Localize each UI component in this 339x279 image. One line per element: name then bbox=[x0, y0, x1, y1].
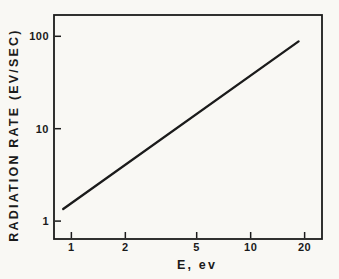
y-tick-label: 1 bbox=[42, 215, 49, 227]
x-tick-label: 1 bbox=[68, 241, 75, 253]
data-line bbox=[63, 41, 298, 209]
y-tick-label: 100 bbox=[29, 30, 49, 42]
y-tick-label: 10 bbox=[36, 123, 49, 135]
log-log-plot: 1251020110100 RADIATION RATE (EV/SEC) E,… bbox=[0, 0, 339, 279]
y-axis-title: RADIATION RATE (EV/SEC) bbox=[7, 28, 21, 241]
chart-figure: 1251020110100 RADIATION RATE (EV/SEC) E,… bbox=[0, 0, 339, 279]
plot-frame bbox=[54, 15, 322, 239]
x-tick-label: 20 bbox=[298, 241, 311, 253]
x-tick-label: 5 bbox=[193, 241, 200, 253]
x-tick-label: 10 bbox=[244, 241, 257, 253]
x-tick-label: 2 bbox=[122, 241, 129, 253]
x-axis-title: E, ev bbox=[177, 258, 217, 272]
